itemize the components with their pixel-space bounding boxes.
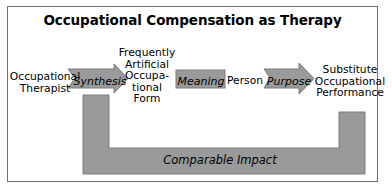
meaning-box-label: Meaning — [177, 76, 225, 88]
figure-canvas: Occupational Compensation as Therapy Occ… — [0, 0, 392, 194]
node-person: Person — [224, 75, 266, 87]
node-substitute-occupational-performance: Substitute Occupational Performance — [310, 64, 390, 99]
synthesis-arrow-label: Synthesis — [72, 76, 128, 88]
purpose-arrow-label: Purpose — [265, 76, 313, 88]
comparable-impact-label: Comparable Impact — [130, 154, 310, 166]
